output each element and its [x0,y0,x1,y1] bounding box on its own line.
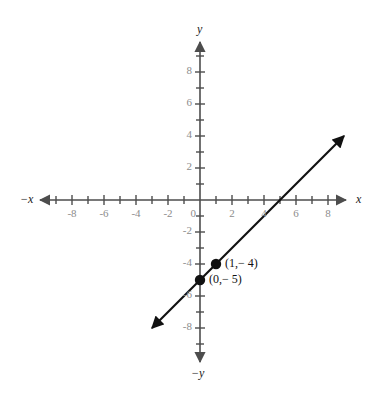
x-tick-label: -6 [90,207,118,219]
data-point-label: (0,− 5) [209,272,242,287]
y-tick-label: 8 [172,64,192,76]
y-axis [195,42,205,362]
x-tick-label: -8 [58,207,86,219]
x-tick-label: 0 [180,207,196,219]
data-point-label: (1,− 4) [225,256,258,271]
axis-label-negative-y: −y [191,366,204,381]
y-tick-label: -2 [172,224,192,236]
y-tick-label: -4 [172,256,192,268]
x-tick-label: 4 [250,207,278,219]
graph-canvas [0,0,386,396]
x-tick-label: 8 [314,207,342,219]
coordinate-plane-graph: −x x y −y -8-6-4-2024688642-2-4-6-8 (1,−… [0,0,386,396]
axis-label-negative-x: −x [20,192,33,207]
data-point-marker [195,275,205,285]
data-point-marker [211,259,221,269]
y-tick-label: 6 [172,96,192,108]
x-tick-label: -4 [122,207,150,219]
x-tick-label: -2 [154,207,182,219]
y-tick-label: -6 [172,288,192,300]
axis-label-positive-x: x [356,192,361,207]
y-tick-label: 2 [172,160,192,172]
x-axis [40,195,346,205]
y-tick-label: 4 [172,128,192,140]
axis-label-positive-y: y [197,22,202,37]
x-tick-label: 6 [282,207,310,219]
y-tick-label: -8 [172,320,192,332]
x-tick-label: 2 [218,207,246,219]
